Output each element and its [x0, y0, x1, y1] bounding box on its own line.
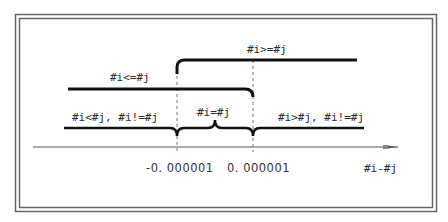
range-line-le: [68, 89, 253, 97]
tick-label-pos: 0. 000001: [227, 161, 290, 175]
tolerance-diagram: #i>=#j #i<=#j #i<#j, #i!=#j #i=#j #i>#j,…: [0, 0, 448, 222]
range-label-lt: #i<#j, #i!=#j: [72, 111, 158, 124]
range-label-le: #i<=#j: [110, 71, 150, 84]
axis-label: #i-#j: [364, 162, 397, 175]
range-label-gt: #i>#j, #i!=#j: [278, 111, 364, 124]
range-label-ge: #i>=#j: [247, 43, 287, 56]
axis-arrow-head: [383, 145, 388, 149]
tick-label-neg: -0. 000001: [146, 161, 214, 175]
range-line-ge: [177, 60, 357, 74]
range-label-eq: #i=#j: [197, 106, 230, 119]
